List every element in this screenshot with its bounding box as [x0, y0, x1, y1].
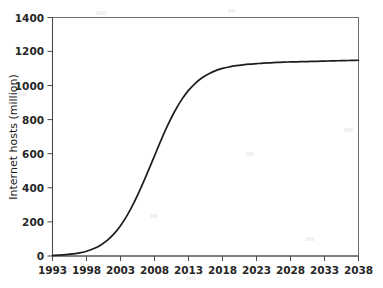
y-axis-title: Internet hosts (million): [7, 74, 20, 199]
x-tick-label: 2038: [344, 264, 373, 276]
x-tick-label: 2028: [276, 264, 305, 276]
chart-background: [0, 0, 383, 288]
y-tick-label: 800: [22, 114, 44, 126]
y-tick-label: 0: [37, 250, 44, 262]
internet-hosts-line-chart: 0 200 400 600 800 1000 1200 1400 1993 19…: [0, 0, 383, 288]
x-tick-label: 2013: [174, 264, 203, 276]
x-tick-label: 1993: [38, 264, 67, 276]
x-tick-label: 1998: [72, 264, 101, 276]
y-tick-label: 200: [22, 216, 44, 228]
y-tick-label: 400: [22, 182, 44, 194]
x-tick-label: 2033: [310, 264, 339, 276]
x-tick-label: 2003: [106, 264, 135, 276]
y-tick-label: 1200: [15, 45, 44, 57]
x-tick-label: 2023: [242, 264, 271, 276]
chart-figure: 0 200 400 600 800 1000 1200 1400 1993 19…: [0, 0, 383, 288]
y-tick-label: 600: [22, 148, 44, 160]
x-tick-label: 2008: [140, 264, 169, 276]
y-tick-label: 1400: [15, 12, 44, 24]
x-tick-label: 2018: [208, 264, 237, 276]
